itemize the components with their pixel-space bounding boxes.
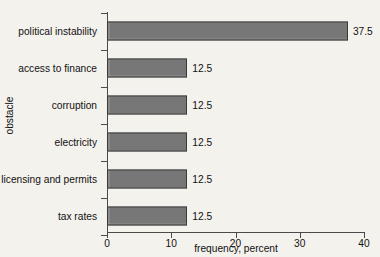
- bar: [107, 96, 187, 115]
- y-axis-tick: [101, 124, 107, 125]
- category-label: electricity: [0, 137, 97, 148]
- bar: [107, 170, 187, 189]
- bar-value-label: 12.5: [192, 137, 212, 148]
- y-axis-title: obstacle: [4, 76, 15, 156]
- y-axis-tick: [101, 50, 107, 51]
- y-axis-tick: [101, 161, 107, 162]
- category-label: corruption: [0, 100, 97, 111]
- chart-title: [0, 0, 380, 2]
- bar: [107, 22, 348, 41]
- bar: [107, 207, 187, 226]
- y-axis-tick: [101, 87, 107, 88]
- category-label: access to finance: [0, 63, 97, 74]
- bar-value-label: 12.5: [192, 174, 212, 185]
- y-axis-tick: [101, 198, 107, 199]
- x-axis-title: frequency, percent: [107, 243, 365, 254]
- bar-value-label: 12.5: [192, 100, 212, 111]
- bar-value-label: 12.5: [192, 63, 212, 74]
- category-label: licensing and permits: [0, 174, 97, 185]
- bar: [107, 133, 187, 152]
- y-axis-tick: [101, 13, 107, 14]
- category-label: political instability: [0, 26, 97, 37]
- y-axis-line: [107, 12, 108, 233]
- bar-chart: political instability37.5access to finan…: [0, 0, 380, 257]
- bar-value-label: 12.5: [192, 211, 212, 222]
- category-label: tax rates: [0, 211, 97, 222]
- bar: [107, 59, 187, 78]
- bar-value-label: 37.5: [353, 26, 373, 37]
